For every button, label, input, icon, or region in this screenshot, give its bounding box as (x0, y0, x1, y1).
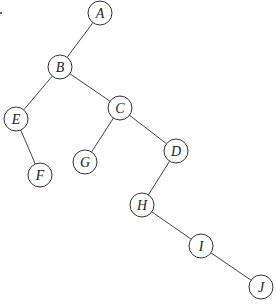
edge-C-D (130, 115, 167, 143)
node-label: E (11, 112, 21, 127)
nodes: ABCDEFGHIJ (4, 1, 273, 299)
node-label: C (115, 101, 125, 116)
edge-C-G (92, 118, 114, 152)
edge-A-B (67, 23, 93, 58)
node-D: D (164, 139, 188, 163)
node-label: A (95, 6, 105, 21)
edge-D-H (148, 161, 169, 195)
edge-E-F (21, 130, 36, 164)
node-H: H (130, 193, 154, 217)
node-G: G (73, 150, 97, 174)
node-J: J (249, 275, 273, 299)
edge-I-J (211, 253, 251, 280)
node-A: A (88, 1, 112, 25)
node-label: J (258, 280, 265, 295)
edge-B-E (24, 76, 52, 110)
node-B: B (48, 55, 72, 79)
edge-B-C (70, 74, 110, 101)
node-I: I (189, 234, 213, 258)
binary-tree-diagram: ABCDEFGHIJ (0, 0, 276, 306)
node-E: E (4, 107, 28, 131)
node-F: F (28, 163, 52, 187)
edge-H-I (152, 212, 191, 239)
node-label: B (56, 60, 65, 75)
node-label: G (80, 155, 90, 170)
stray-dot (0, 12, 2, 14)
node-label: D (170, 144, 181, 159)
node-label: H (136, 198, 148, 213)
node-C: C (108, 96, 132, 120)
node-label: F (35, 168, 45, 183)
